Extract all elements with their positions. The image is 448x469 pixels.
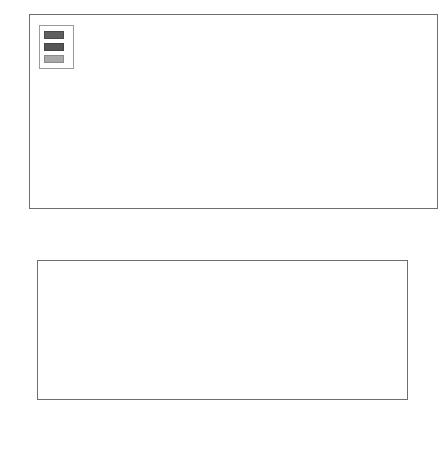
top-plot-frame [29,14,438,209]
bottom-plot-area [38,261,407,399]
top-chart-panel [0,0,448,240]
legend [39,25,74,69]
bottom-x-axis-labels [37,403,408,467]
legend-item [44,29,68,41]
legend-swatch-total-order [44,43,64,51]
bottom-plot-frame [37,260,408,400]
bottom-chart-panel [0,248,448,469]
top-plot-area [30,15,437,208]
legend-swatch-interaction [44,55,64,63]
legend-item [44,41,68,53]
bottom-y-axis [0,260,34,400]
legend-swatch-first-order [44,31,64,39]
top-y-axis [0,14,26,209]
legend-item [44,53,68,65]
sensitivity-analysis-figure [0,0,448,469]
